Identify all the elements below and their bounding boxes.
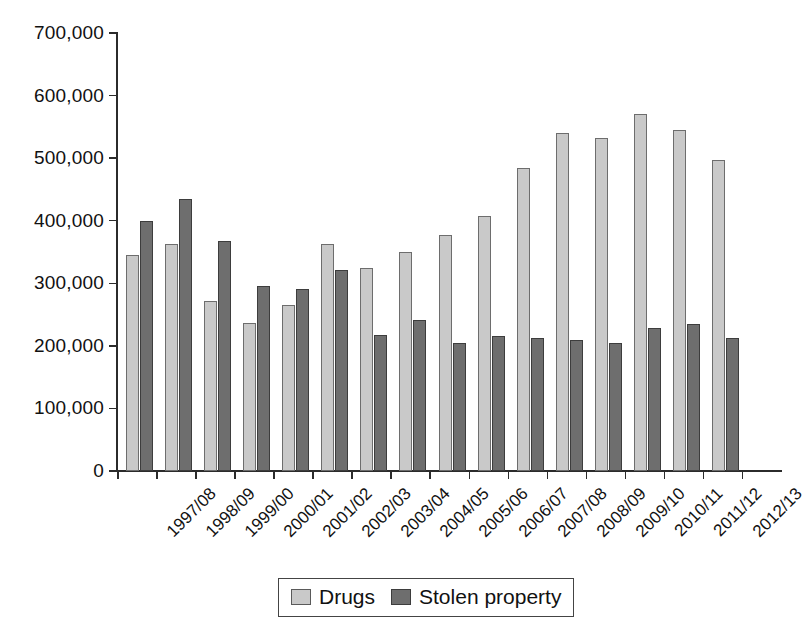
legend-label: Drugs [319,585,375,609]
bar-stolen-property [257,286,270,471]
bar-stolen-property [140,221,153,471]
x-axis-tick [508,471,510,479]
x-axis-tick [156,471,158,479]
y-axis-tick-label: 300,000 [34,272,104,294]
x-axis-tick [117,471,119,479]
bar-stolen-property [453,343,466,471]
y-axis-tick [109,408,116,410]
x-axis-tick [234,471,236,479]
y-axis-tick-label: 700,000 [34,22,104,44]
x-axis-tick [469,471,471,479]
bar-stolen-property [648,328,661,471]
bar-drugs [478,216,491,471]
legend-swatch-icon [291,589,311,605]
bar-stolen-property [726,338,739,471]
y-axis-tick [109,95,116,97]
bar-drugs [595,138,608,471]
bar-drugs [556,133,569,471]
bar-stolen-property [374,335,387,471]
x-axis-tick [195,471,197,479]
y-axis-tick [109,283,116,285]
x-axis-tick [273,471,275,479]
y-axis-tick [109,157,116,159]
y-axis-tick [109,470,116,472]
bar-drugs [517,168,530,471]
legend-label: Stolen property [419,585,561,609]
bar-stolen-property [335,270,348,471]
plot-area [117,33,781,471]
y-axis-tick-label: 600,000 [34,85,104,107]
x-axis-tick [742,471,744,479]
bar-stolen-property [296,289,309,471]
bar-stolen-property [492,336,505,471]
bar-drugs [204,301,217,471]
legend-entry-drugs[interactable]: Drugs [291,585,375,609]
x-axis-tick [429,471,431,479]
x-axis-tick [312,471,314,479]
y-axis-tick-label: 500,000 [34,147,104,169]
bar-stolen-property [531,338,544,471]
bar-drugs [282,305,295,471]
x-axis-tick [586,471,588,479]
bar-drugs [126,255,139,471]
bar-drugs [712,160,725,471]
y-axis-tick [109,32,116,34]
bar-drugs [399,252,412,471]
y-axis-tick-label: 400,000 [34,210,104,232]
bar-stolen-property [687,324,700,471]
bar-stolen-property [218,241,231,471]
bar-drugs [360,268,373,471]
bar-drugs [634,114,647,471]
x-axis-tick [351,471,353,479]
legend-entry-stolen-property[interactable]: Stolen property [391,585,561,609]
chart-legend: DrugsStolen property [278,578,574,617]
bar-stolen-property [179,199,192,471]
y-axis-tick-label: 100,000 [34,397,104,419]
x-axis-tick [664,471,666,479]
y-axis-tick [109,345,116,347]
x-axis-tick [547,471,549,479]
x-axis-tick [703,471,705,479]
bar-stolen-property [413,320,426,471]
bar-stolen-property [609,343,622,471]
bar-drugs [439,235,452,471]
x-axis-tick [625,471,627,479]
legend-swatch-icon [391,589,411,605]
x-axis-tick [390,471,392,479]
bar-drugs [165,244,178,471]
bar-drugs [673,130,686,471]
y-axis-tick-label: 0 [93,460,104,482]
bar-stolen-property [570,340,583,471]
y-axis-tick [109,220,116,222]
bar-drugs [321,244,334,471]
bar-drugs [243,323,256,471]
y-axis-tick-label: 200,000 [34,335,104,357]
